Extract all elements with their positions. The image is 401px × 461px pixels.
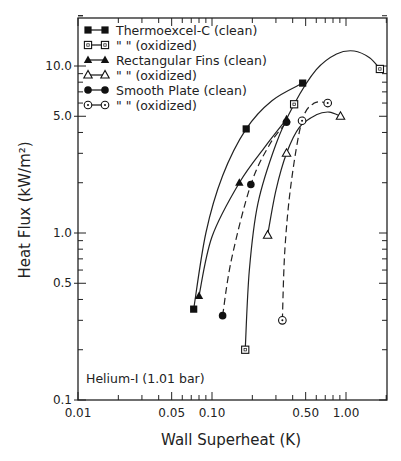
x-tick-label: 0.01 — [65, 406, 92, 420]
series-marker-0 — [243, 125, 250, 132]
legend-label: " " (oxidized) — [116, 68, 197, 83]
x-axis-title: Wall Superheat (K) — [161, 431, 301, 449]
x-tick-label: 0.10 — [199, 406, 226, 420]
legend-label: Rectangular Fins (clean) — [116, 53, 267, 68]
legend-marker-icon — [101, 86, 109, 94]
series-marker-0 — [190, 306, 197, 313]
legend-item: " " (oxidized) — [84, 98, 197, 113]
legend-item: " " (oxidized) — [84, 68, 197, 83]
series-curve-1 — [245, 51, 380, 350]
series-marker-1 — [291, 101, 298, 108]
legend-item: Thermoexcel-C (clean) — [84, 23, 257, 38]
series-marker-3 — [263, 231, 271, 239]
legend-label: " " (oxidized) — [116, 38, 197, 53]
y-tick-label: 0.5 — [53, 276, 72, 290]
legend-marker-icon — [101, 26, 108, 33]
legend-marker-icon — [101, 41, 108, 48]
series-marker-4 — [247, 181, 255, 189]
legend-item: Rectangular Fins (clean) — [84, 53, 267, 68]
series-marker-4 — [219, 312, 227, 320]
y-axis-title: Heat Flux (kW/m²) — [16, 141, 34, 278]
legend-label: " " (oxidized) — [116, 98, 197, 113]
series-marker-4 — [283, 119, 291, 127]
x-tick-label: 0.50 — [292, 406, 319, 420]
data-markers — [190, 65, 383, 353]
legend-marker-icon — [84, 41, 91, 48]
y-tick-label: 5.0 — [53, 109, 72, 123]
legend-item: Smooth Plate (clean) — [84, 83, 247, 98]
series-curve-3 — [268, 112, 341, 235]
legend-marker-icon — [84, 86, 92, 94]
legend-marker-icon — [84, 71, 92, 79]
legend-label: Thermoexcel-C (clean) — [115, 23, 257, 38]
y-tick-label: 0.1 — [53, 393, 72, 407]
series-curve-5 — [282, 102, 327, 321]
series-marker-3 — [282, 149, 290, 157]
legend-label: Smooth Plate (clean) — [116, 83, 247, 98]
legend-marker-icon — [101, 71, 109, 79]
series-marker-1 — [242, 346, 249, 353]
x-tick-label: 0.05 — [158, 406, 185, 420]
y-tick-label: 1.0 — [53, 226, 72, 240]
series-marker-1 — [376, 65, 383, 72]
legend-marker-icon — [101, 56, 109, 64]
annotation-label: Helium-I (1.01 bar) — [86, 371, 205, 386]
series-marker-0 — [299, 79, 306, 86]
series-marker-2 — [235, 178, 243, 186]
legend-item: " " (oxidized) — [84, 38, 197, 53]
legend-marker-icon — [84, 26, 91, 33]
heat-flux-chart: 0.010.050.100.501.000.10.51.05.010.0 The… — [0, 0, 401, 461]
x-tick-label: 1.00 — [333, 406, 360, 420]
legend-marker-icon — [84, 56, 92, 64]
legend: Thermoexcel-C (clean)" " (oxidized)Recta… — [84, 23, 267, 113]
y-tick-label: 10.0 — [45, 59, 72, 73]
